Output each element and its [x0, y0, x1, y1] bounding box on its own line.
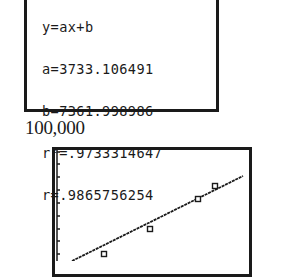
data-points [102, 184, 218, 257]
data-point-square [196, 197, 201, 202]
data-point-square [213, 184, 218, 189]
data-point-square [102, 252, 107, 257]
data-point-square [148, 227, 153, 232]
